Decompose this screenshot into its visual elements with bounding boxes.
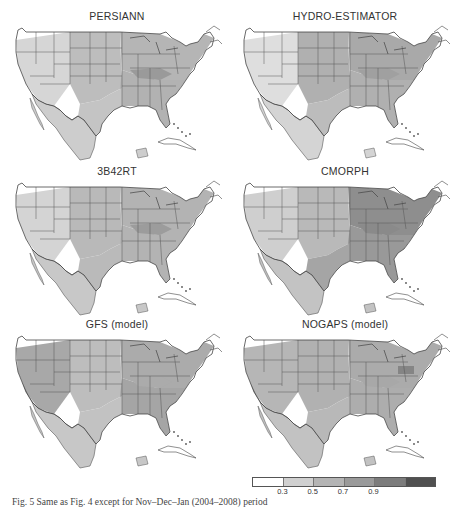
colorbar-segment: [253, 478, 283, 486]
bahamas-island: [177, 282, 179, 284]
region-west: [16, 187, 70, 261]
bahamas-island: [401, 123, 403, 125]
region-pennsylvania: [398, 366, 414, 374]
colorbar-segment: [283, 478, 314, 486]
colorbar-tick: 0.7: [338, 487, 348, 496]
map-panel: CMORPH: [234, 165, 456, 315]
map-panel: PERSIANN: [6, 10, 228, 160]
colorbar-tick: 0.5: [307, 487, 317, 496]
bahamas-island: [189, 133, 191, 135]
bahamas-island: [413, 290, 415, 292]
bahamas-island: [405, 282, 407, 284]
cuba-outline: [386, 293, 424, 305]
bahamas-island: [417, 441, 419, 443]
bahamas-island: [173, 278, 175, 280]
map-panel: HYDRO-ESTIMATOR: [234, 10, 456, 160]
bahamas-island: [417, 133, 419, 135]
bahamas-island: [409, 131, 411, 133]
bahamas-island: [185, 135, 187, 137]
yucatan-region: [136, 456, 148, 466]
bahamas-island: [409, 439, 411, 441]
panel-title: HYDRO-ESTIMATOR: [234, 10, 456, 22]
region-west: [244, 340, 298, 414]
panel-title: PERSIANN: [6, 10, 228, 22]
figure-caption: Fig. 5 Same as Fig. 4 except for Nov–Dec…: [12, 497, 267, 507]
us-map: [10, 332, 224, 470]
colorbar-segment: [405, 478, 436, 486]
bahamas-island: [189, 441, 191, 443]
yucatan-region: [364, 148, 376, 158]
map-panel: NOGAPS (model): [234, 318, 456, 468]
bahamas-island: [177, 127, 179, 129]
cuba-outline: [158, 446, 196, 458]
colorbar-tick: 0.9: [368, 487, 378, 496]
colorbar-ticks: 0.3 0.5 0.7 0.9: [252, 487, 434, 497]
us-map: [238, 179, 452, 317]
yucatan-region: [364, 303, 376, 313]
bahamas-island: [401, 278, 403, 280]
yucatan-region: [136, 148, 148, 158]
map-panel: GFS (model): [6, 318, 228, 468]
bahamas-island: [413, 443, 415, 445]
bahamas-island: [181, 439, 183, 441]
colorbar-tick: 0.3: [277, 487, 287, 496]
bahamas-island: [401, 431, 403, 433]
bahamas-island: [185, 443, 187, 445]
bahamas-island: [173, 431, 175, 433]
bahamas-island: [185, 290, 187, 292]
colorbar: [252, 477, 436, 487]
cuba-outline: [158, 138, 196, 150]
colorbar-segment: [313, 478, 344, 486]
bahamas-island: [189, 288, 191, 290]
cuba-outline: [158, 293, 196, 305]
panel-title: NOGAPS (model): [234, 318, 456, 330]
bahamas-island: [413, 135, 415, 137]
bahamas-island: [409, 286, 411, 288]
bahamas-island: [181, 131, 183, 133]
us-map: [10, 24, 224, 162]
bahamas-island: [173, 123, 175, 125]
bahamas-island: [177, 435, 179, 437]
colorbar-segment: [344, 478, 375, 486]
bahamas-island: [405, 127, 407, 129]
region-west: [244, 187, 298, 261]
bahamas-island: [181, 286, 183, 288]
yucatan-region: [136, 303, 148, 313]
bahamas-island: [417, 288, 419, 290]
panel-title: GFS (model): [6, 318, 228, 330]
map-panel: 3B42RT: [6, 165, 228, 315]
region-west: [244, 32, 298, 106]
us-map: [10, 179, 224, 317]
colorbar-segment: [374, 478, 405, 486]
us-map: [238, 24, 452, 162]
cuba-outline: [386, 446, 424, 458]
panel-title: 3B42RT: [6, 165, 228, 177]
region-west: [16, 32, 70, 106]
region-west: [16, 340, 70, 414]
cuba-outline: [386, 138, 424, 150]
bahamas-island: [405, 435, 407, 437]
panel-title: CMORPH: [234, 165, 456, 177]
us-map: [238, 332, 452, 470]
yucatan-region: [364, 456, 376, 466]
